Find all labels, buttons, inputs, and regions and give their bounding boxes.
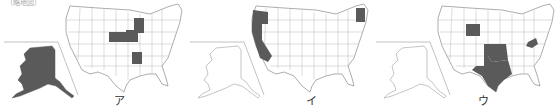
map-panel-i: イ xyxy=(186,0,372,111)
oregon-shaded xyxy=(252,10,268,24)
map-label-i: イ xyxy=(306,92,317,108)
nebraska-shaded xyxy=(109,32,126,42)
alaska-shaded xyxy=(12,46,74,98)
us-map-a xyxy=(0,0,186,111)
new-england-shaded xyxy=(356,8,365,22)
map-label-u: ウ xyxy=(478,92,489,108)
arkansas-shaded xyxy=(132,52,142,64)
us-map-u xyxy=(372,0,558,111)
wyoming-shaded xyxy=(466,24,480,36)
map-panel-a: ア xyxy=(0,0,186,111)
map-panel-u: ウ xyxy=(372,0,558,111)
map-label-a: ア xyxy=(114,92,125,108)
us-map-i xyxy=(186,0,372,111)
wisconsin-shaded xyxy=(134,18,144,33)
